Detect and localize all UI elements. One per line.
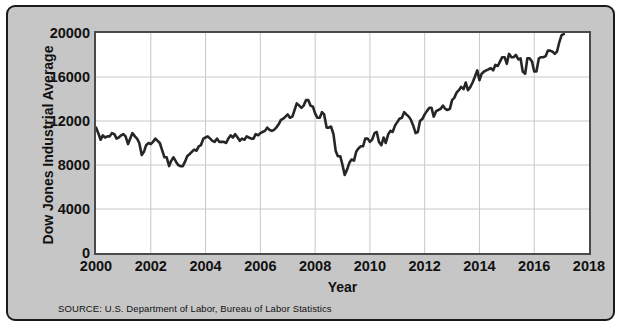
y-tick-label: 4000 [28,202,90,217]
x-tick-label: 2008 [285,259,345,275]
x-tick-label: 2004 [176,259,236,275]
y-tick-label: 8000 [28,158,90,173]
chart-figure: Dow Jones Industrial Average 04000800012… [0,0,622,334]
x-axis-ticks: 2000200220042006200820102012201420162018 [94,259,591,279]
plot-area [94,31,591,255]
data-series-line [96,33,589,253]
x-tick-label: 2018 [559,259,619,275]
y-tick-label: 20000 [28,26,90,41]
x-tick-label: 2006 [230,259,290,275]
x-tick-label: 2012 [395,259,455,275]
chart-panel: Dow Jones Industrial Average 04000800012… [6,5,615,321]
x-axis-title: Year [94,279,591,295]
source-note: SOURCE: U.S. Department of Labor, Bureau… [58,303,332,314]
x-tick-label: 2010 [340,259,400,275]
y-tick-label: 12000 [28,114,90,129]
y-axis-ticks: 040008000120001600020000 [24,31,90,255]
x-tick-label: 2016 [504,259,564,275]
x-tick-label: 2014 [449,259,509,275]
plot-inner [96,33,589,253]
y-tick-label: 16000 [28,70,90,85]
x-tick-label: 2002 [121,259,181,275]
x-tick-label: 2000 [66,259,126,275]
